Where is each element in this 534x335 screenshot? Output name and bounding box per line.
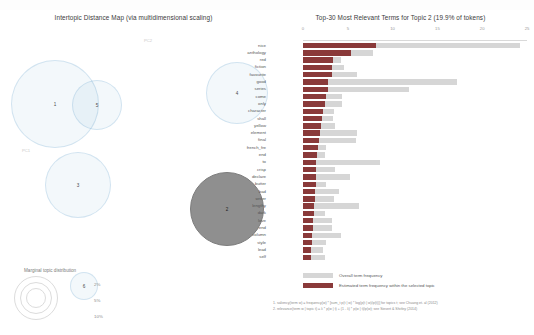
- term-bar: [303, 189, 527, 194]
- term-label: to: [206, 159, 266, 164]
- term-label: yellow: [206, 123, 266, 128]
- term-label: lead: [206, 247, 266, 252]
- bar-topic-frequency: [303, 211, 314, 216]
- term-row[interactable]: dark: [267, 210, 534, 217]
- term-bar: [303, 145, 527, 150]
- term-bar: [303, 79, 527, 84]
- term-bar: [303, 233, 527, 238]
- bar-topic-frequency: [303, 225, 313, 230]
- term-label: style: [206, 240, 266, 245]
- term-bar: [303, 87, 527, 92]
- term-label: anthology: [206, 50, 266, 55]
- term-bar: [303, 203, 527, 208]
- term-bar: [303, 218, 527, 223]
- legend-label-selected: Estimated term frequency within the sele…: [339, 283, 435, 288]
- legend-swatch-selected: [303, 283, 333, 288]
- size-legend-label-2: 2%: [94, 282, 100, 287]
- term-bar: [303, 225, 527, 230]
- bar-topic-frequency: [303, 203, 314, 208]
- term-row[interactable]: declare: [267, 173, 534, 180]
- term-label: only: [206, 101, 266, 106]
- term-bar: [303, 101, 527, 106]
- term-row[interactable]: character: [267, 108, 534, 115]
- topic-bubble-3[interactable]: 3: [45, 152, 111, 218]
- term-row[interactable]: come: [267, 93, 534, 100]
- term-row[interactable]: love: [267, 217, 534, 224]
- term-label: love: [206, 218, 266, 223]
- term-row[interactable]: self: [267, 254, 534, 261]
- topic-bubble-5[interactable]: 5: [72, 80, 122, 130]
- bar-topic-frequency: [303, 196, 315, 201]
- axis-label-pc1: PC1: [22, 148, 30, 153]
- term-row[interactable]: element: [267, 130, 534, 137]
- topic-bubble-label: 3: [77, 183, 80, 188]
- term-bar: [303, 109, 527, 114]
- term-row[interactable]: favourite: [267, 71, 534, 78]
- term-row[interactable]: writer: [267, 195, 534, 202]
- size-legend-circle-10: [14, 276, 58, 320]
- bar-topic-frequency: [303, 145, 318, 150]
- bar-topic-frequency: [303, 240, 312, 245]
- term-row[interactable]: shall: [267, 115, 534, 122]
- term-bar: [303, 240, 527, 245]
- term-label: self: [206, 254, 266, 259]
- marginal-distribution-title: Marginal topic distribution: [24, 268, 76, 273]
- term-row[interactable]: nice: [267, 42, 534, 49]
- term-label: fiction: [206, 64, 266, 69]
- term-label: dark: [206, 210, 266, 215]
- x-axis-rule: [303, 40, 527, 41]
- term-row[interactable]: end: [267, 151, 534, 158]
- term-row[interactable]: crisp: [267, 166, 534, 173]
- term-row[interactable]: fiction: [267, 64, 534, 71]
- term-bars: niceanthologyredfictionfavouritegoodseri…: [267, 42, 534, 261]
- term-bar: [303, 50, 527, 55]
- marginal-topic-distribution-legend: Marginal topic distribution 2% 5% 10%: [14, 262, 164, 332]
- size-legend-label-10: 10%: [94, 314, 103, 319]
- term-label: shall: [206, 116, 266, 121]
- term-label: crisp: [206, 167, 266, 172]
- x-tick-15: 15: [435, 26, 440, 31]
- term-bar: [303, 255, 527, 260]
- x-tick-10: 10: [390, 26, 395, 31]
- term-barchart-panel: Top-30 Most Relevant Terms for Topic 2 (…: [267, 0, 534, 335]
- bar-topic-frequency: [303, 65, 332, 70]
- term-label: lengthy: [206, 203, 266, 208]
- term-bar: [303, 138, 527, 143]
- bar-topic-frequency: [303, 138, 319, 143]
- term-row[interactable]: red: [267, 57, 534, 64]
- term-row[interactable]: good: [267, 78, 534, 85]
- bar-topic-frequency: [303, 116, 322, 121]
- term-row[interactable]: lengthy: [267, 203, 534, 210]
- term-label: element: [206, 130, 266, 135]
- term-bar: [303, 152, 527, 157]
- term-row[interactable]: final: [267, 137, 534, 144]
- term-row[interactable]: end: [267, 224, 534, 231]
- term-label: end: [206, 225, 266, 230]
- bar-topic-frequency: [303, 43, 376, 48]
- term-row[interactable]: lead: [267, 246, 534, 253]
- term-label: come: [206, 94, 266, 99]
- term-bar: [303, 174, 527, 179]
- bar-topic-frequency: [303, 72, 332, 77]
- term-row[interactable]: anthology: [267, 49, 534, 56]
- term-row[interactable]: column: [267, 232, 534, 239]
- x-tick-5: 5: [347, 26, 349, 31]
- term-bar: [303, 167, 527, 172]
- x-axis-ticks: 0510152025: [303, 26, 527, 40]
- term-label: final: [206, 137, 266, 142]
- term-row[interactable]: yellow: [267, 122, 534, 129]
- term-bar: [303, 160, 527, 165]
- bar-topic-frequency: [303, 174, 316, 179]
- intertopic-map-title: Intertopic Distance Map (via multidimens…: [0, 14, 267, 21]
- term-bar: [303, 65, 527, 70]
- term-row[interactable]: series: [267, 86, 534, 93]
- term-row[interactable]: style: [267, 239, 534, 246]
- term-bar: [303, 211, 527, 216]
- x-tick-25: 25: [525, 26, 530, 31]
- term-row[interactable]: bad: [267, 188, 534, 195]
- term-row[interactable]: to: [267, 159, 534, 166]
- term-row[interactable]: french_fre: [267, 144, 534, 151]
- term-row[interactable]: butter: [267, 181, 534, 188]
- bar-topic-frequency: [303, 94, 326, 99]
- term-row[interactable]: only: [267, 100, 534, 107]
